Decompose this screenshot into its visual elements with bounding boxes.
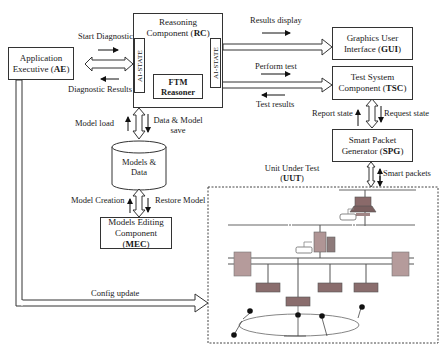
mec-box: Models Editing Component (MEC) (100, 217, 172, 249)
models-data-label: Models & Data (112, 157, 166, 177)
tsc-suffix: ) (403, 83, 406, 93)
smart-packets-label: Smart packets (383, 168, 431, 178)
data-model-save-line1: Data & Model (152, 115, 204, 125)
gui-box: Graphics User Interface (GUI) (332, 27, 413, 60)
gui-prefix: Interface ( (344, 44, 381, 54)
start-diagnostic-label: Start Diagnostic (78, 31, 133, 41)
gui-subtitle: Interface (GUI) (344, 44, 401, 55)
rc-left-ai-state: AI-STATE (134, 38, 145, 93)
ae-subtitle: Executive (AE) (13, 64, 70, 75)
network-module-icon (256, 283, 378, 306)
ae-abbr: AE (54, 64, 67, 74)
ftm-reasoner-box: FTM Reasoner (153, 74, 203, 99)
ftm-title: FTM (161, 77, 195, 87)
config-update-label: Config update (91, 288, 139, 298)
data-model-save-line2: save (152, 125, 204, 135)
rc-prefix: Component ( (146, 28, 193, 38)
model-creation-label: Model Creation (71, 195, 125, 205)
ae-suffix: ) (66, 64, 69, 74)
uut-title: Unit Under Test (252, 163, 332, 173)
tsc-box: Test System Component (TSC) (332, 66, 413, 100)
rc-subtitle: Component (RC) (146, 28, 209, 39)
mec-abbr: MEC (126, 239, 147, 249)
rc-models-double-arrow (133, 108, 145, 139)
results-display-label: Results display (250, 15, 302, 25)
perform-test-label: Perform test (255, 61, 297, 71)
restore-model-label: Restore Model (155, 195, 205, 205)
models-data-line2: Data (112, 167, 166, 177)
printer-icon (296, 242, 312, 253)
uut-abbr: UUT (283, 173, 301, 183)
server-icon (314, 232, 335, 252)
uut-network (228, 190, 416, 338)
ae-rc-double-arrow (85, 57, 133, 71)
spg-uut-double-arrow (367, 162, 375, 187)
application-executive-box: Application Executive (AE) (8, 47, 74, 80)
tower-server-right-icon (392, 252, 409, 276)
tsc-spg-double-arrow (366, 99, 378, 128)
ftm-subtitle: Reasoner (161, 87, 195, 97)
mec-subtitle: Component (MEC) (101, 228, 171, 250)
spg-prefix: Generator ( (342, 146, 383, 156)
workstation-icon (350, 197, 376, 216)
rc-abbr: RC (194, 28, 207, 38)
spg-suffix: ) (400, 146, 403, 156)
rc-suffix: ) (207, 28, 210, 38)
ai-state-label: AI-STATE (212, 47, 220, 79)
uut-subtitle: (UUT) (252, 173, 332, 183)
rc-title: Reasoning (146, 17, 209, 28)
models-data-line1: Models & (112, 157, 166, 167)
data-model-save-label: Data & Model save (152, 115, 204, 135)
tsc-abbr: TSC (386, 83, 404, 93)
ai-state-label: AI-STATE (136, 50, 144, 82)
tower-server-left-icon (234, 252, 251, 276)
rc-gui-hollow-arrow (223, 39, 332, 55)
gui-title: Graphics User (344, 33, 401, 44)
tsc-subtitle: Component (TSC) (339, 83, 407, 94)
spg-title: Smart Packet (342, 135, 404, 146)
spg-box: Smart Packet Generator (SPG) (332, 129, 413, 162)
models-mec-double-arrow (133, 189, 145, 217)
uut-label: Unit Under Test (UUT) (252, 163, 332, 183)
mec-title: Models Editing (101, 217, 171, 228)
rc-right-ai-state: AI-STATE (210, 38, 221, 88)
tsc-title: Test System (339, 72, 407, 83)
mec-suffix: ) (147, 239, 150, 249)
ae-prefix: Executive ( (13, 64, 54, 74)
spg-subtitle: Generator (SPG) (342, 146, 404, 157)
request-state-label: Request state (384, 108, 429, 118)
ae-title: Application (13, 53, 70, 64)
report-state-label: Report state (312, 108, 353, 118)
tsc-prefix: Component ( (339, 83, 386, 93)
test-results-label: Test results (256, 99, 294, 109)
rc-tsc-double-arrow (212, 78, 332, 92)
gui-abbr: GUI (381, 44, 398, 54)
uut-suffix: ) (301, 173, 304, 183)
diagnostic-results-label: Diagnostic Results (68, 84, 132, 94)
spg-abbr: SPG (383, 146, 401, 156)
model-load-label: Model load (75, 118, 114, 128)
gui-suffix: ) (398, 44, 401, 54)
